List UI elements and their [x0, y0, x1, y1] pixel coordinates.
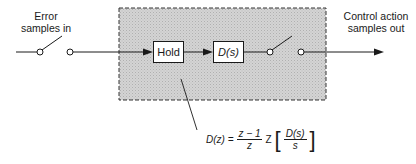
left-bracket: [: [275, 129, 281, 151]
ds-block: D(s): [213, 41, 244, 63]
pulse-transfer-formula: D(z) = z − 1 z Z [ D(s) s ]: [206, 128, 316, 151]
output-sampler-right-node: [298, 49, 304, 55]
formula-fraction: z − 1 z: [237, 128, 263, 151]
input-label: Error samples in: [14, 10, 78, 34]
ds-label: D(s): [218, 46, 239, 58]
input-sampler-right-node: [67, 49, 73, 55]
formula-lhs: D(z) =: [206, 134, 234, 145]
input-sampler-switch: [42, 36, 62, 50]
z-transform-operator: Z: [265, 134, 271, 145]
output-arrow: [374, 49, 384, 56]
hold-label: Hold: [157, 46, 180, 58]
output-label: Control action samples out: [336, 10, 416, 34]
right-bracket: ]: [310, 129, 316, 151]
hold-block: Hold: [153, 41, 184, 63]
formula-inner-fraction: D(s) s: [284, 128, 307, 151]
